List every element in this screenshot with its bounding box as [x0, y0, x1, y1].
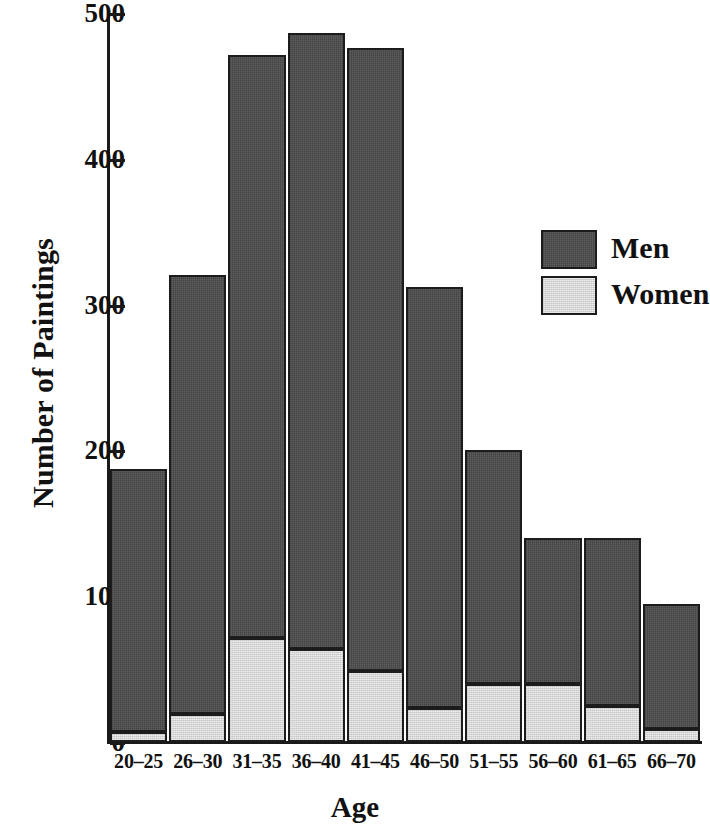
bar-segment-men — [169, 275, 226, 714]
bar-segment-women — [406, 708, 463, 742]
bar-chart: Number of Paintings 0100200300400500 20–… — [0, 0, 710, 834]
x-axis-tick-label: 46–50 — [402, 750, 467, 773]
bar-segment-men — [347, 48, 404, 671]
x-axis-tick-label: 36–40 — [284, 750, 349, 773]
y-axis-tick: 400 — [0, 159, 125, 162]
bar-segment-men — [406, 287, 463, 708]
x-axis-tick-label: 31–35 — [224, 750, 289, 773]
x-axis-tick-label: 41–45 — [343, 750, 408, 773]
y-axis-tick-mark — [110, 742, 125, 745]
bar-segment-women — [643, 729, 700, 742]
bar-group — [228, 55, 285, 742]
bar-group — [110, 469, 167, 742]
bar-group — [406, 287, 463, 742]
bar-segment-women — [228, 638, 285, 742]
bar-group — [643, 604, 700, 743]
bar-segment-men — [110, 469, 167, 731]
bar-group — [347, 48, 404, 742]
y-axis-tick: 200 — [0, 450, 125, 453]
bar-segment-men — [643, 604, 700, 729]
bar-segment-men — [465, 450, 522, 683]
bar-segment-women — [110, 732, 167, 742]
x-axis-tick-label: 56–60 — [520, 750, 585, 773]
plot-area — [110, 13, 702, 742]
y-axis-tick: 500 — [0, 13, 125, 16]
x-axis-title: Age — [0, 791, 710, 824]
women-swatch-icon — [541, 276, 597, 315]
bar-segment-men — [584, 538, 641, 706]
bar-group — [524, 538, 581, 742]
bar-segment-men — [524, 538, 581, 684]
x-axis-tick-label: 20–25 — [106, 750, 171, 773]
bar-segment-women — [347, 671, 404, 742]
y-axis-tick: 100 — [0, 596, 125, 599]
y-axis-title: Number of Paintings — [26, 163, 60, 583]
bar-group — [169, 275, 226, 742]
bar-segment-women — [288, 649, 345, 742]
x-axis-tick-label: 26–30 — [165, 750, 230, 773]
men-swatch-icon — [541, 230, 597, 269]
legend-entry-men: Men — [541, 226, 710, 272]
x-axis-tick-label: 51–55 — [461, 750, 526, 773]
bar-segment-women — [584, 706, 641, 742]
bar-segment-women — [169, 714, 226, 742]
y-axis-tick: 0 — [0, 742, 125, 745]
legend-entry-women: Women — [541, 272, 710, 318]
chart-legend: Men Women — [541, 226, 710, 318]
bar-segment-men — [228, 55, 285, 638]
bar-segment-women — [465, 684, 522, 742]
bar-group — [584, 538, 641, 742]
bar-segment-women — [524, 684, 581, 742]
bar-group — [288, 33, 345, 742]
x-axis-tick-label: 61–65 — [580, 750, 645, 773]
bar-group — [465, 450, 522, 742]
legend-label-women: Women — [611, 274, 709, 314]
legend-label-men: Men — [611, 228, 669, 268]
bar-segment-men — [288, 33, 345, 648]
y-axis-tick: 300 — [0, 305, 125, 308]
x-axis-tick-label: 66–70 — [639, 750, 704, 773]
